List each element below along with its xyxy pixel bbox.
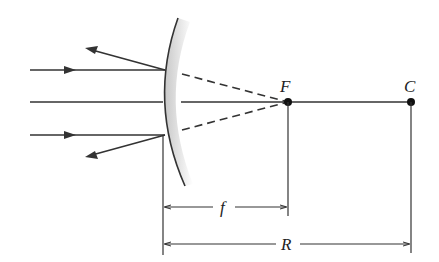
- focal-point-label: F: [280, 78, 290, 95]
- arrow-icon: [85, 151, 98, 159]
- center-of-curvature-label: C: [404, 78, 415, 95]
- arrow-icon: [64, 66, 76, 74]
- virtual-ray-upper: [182, 74, 288, 102]
- arrow-icon: [85, 46, 98, 54]
- arrow-icon: [64, 131, 76, 139]
- reflected-ray-upper: [92, 50, 165, 70]
- diagram-canvas: [0, 0, 439, 262]
- reflected-ray-lower: [92, 135, 165, 155]
- radius-label: R: [281, 236, 291, 253]
- virtual-ray-lower: [182, 102, 288, 130]
- focal-length-label: f: [220, 199, 225, 216]
- convex-mirror-diagram: F C f R: [0, 0, 439, 262]
